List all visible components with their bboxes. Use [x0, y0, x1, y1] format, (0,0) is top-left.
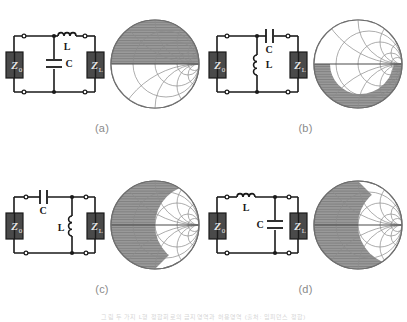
panel-d: Z 0 Z L L C	[204, 161, 407, 322]
panel-label-d: (d)	[204, 283, 407, 295]
circuit-diagram-d: Z 0 Z L L C	[205, 183, 310, 268]
inductor-label-a: L	[63, 41, 70, 52]
source-label-a: Z	[10, 59, 18, 71]
panel-label-c: (c)	[0, 283, 204, 295]
source-label-d: Z	[213, 220, 221, 232]
load-impedance-block-b: Z L	[290, 52, 307, 78]
load-impedance-block-a: Z L	[87, 52, 104, 78]
figure-panel-grid: Z 0 Z L L C	[0, 0, 407, 322]
load-sub-c: L	[98, 227, 102, 235]
smith-chart-b	[310, 14, 406, 114]
inductor-symbol-c	[68, 216, 71, 236]
panel-c-content: Z 0 Z L C L	[0, 161, 204, 289]
source-label-b: Z	[213, 59, 221, 71]
load-label-b: Z	[293, 59, 301, 71]
circuit-diagram-b: Z 0 Z L C L	[205, 22, 310, 107]
panel-label-a: (a)	[0, 122, 204, 134]
circuit-diagram-c: Z 0 Z L C L	[2, 183, 107, 268]
source-sub-d: 0	[222, 227, 226, 235]
inductor-symbol-d	[237, 193, 255, 196]
load-impedance-block-c: Z L	[87, 213, 104, 239]
panel-d-content: Z 0 Z L L C	[204, 161, 407, 289]
panel-label-b: (b)	[204, 122, 407, 134]
source-impedance-block-d: Z 0	[209, 213, 226, 239]
capacitor-symbol-a	[46, 60, 62, 67]
figure-bottom-caption: 그림 두 가지 L형 정합회로의 금지영역과 허용영역 (출처: 임피던스 정합…	[0, 312, 407, 321]
inductor-label-b: L	[266, 59, 273, 70]
capacitor-label-b: C	[265, 44, 272, 55]
capacitor-label-d: C	[256, 219, 263, 230]
inductor-symbol-b	[254, 55, 257, 75]
inductor-label-c: L	[57, 222, 64, 233]
smith-chart-c	[107, 175, 203, 275]
inductor-symbol-a	[58, 32, 76, 35]
terminal-nodes-c	[24, 195, 88, 255]
capacitor-symbol-c	[40, 190, 47, 204]
capacitor-label-c: C	[39, 205, 46, 216]
panel-b-content: Z 0 Z L C L	[204, 0, 407, 128]
load-label-c: Z	[90, 220, 98, 232]
inductor-label-d: L	[243, 202, 250, 213]
load-label-a: Z	[90, 59, 98, 71]
load-sub-a: L	[98, 66, 102, 74]
source-sub-b: 0	[222, 66, 226, 74]
source-impedance-block-b: Z 0	[209, 52, 226, 78]
panel-a: Z 0 Z L L C	[0, 0, 204, 161]
capacitor-label-a: C	[65, 58, 72, 69]
panel-a-content: Z 0 Z L L C	[0, 0, 204, 128]
source-label-c: Z	[10, 220, 18, 232]
load-impedance-block-d: Z L	[290, 213, 307, 239]
load-sub-b: L	[302, 66, 306, 74]
smith-chart-d	[310, 175, 406, 275]
panel-c: Z 0 Z L C L	[0, 161, 204, 322]
load-sub-d: L	[302, 227, 306, 235]
source-impedance-block-a: Z 0	[6, 52, 23, 78]
source-sub-c: 0	[18, 227, 22, 235]
panel-b: Z 0 Z L C L	[204, 0, 407, 161]
circuit-diagram-a: Z 0 Z L L C	[2, 22, 107, 107]
load-label-d: Z	[293, 220, 301, 232]
source-impedance-block-c: Z 0	[6, 213, 23, 239]
smith-chart-a	[107, 14, 203, 114]
capacitor-symbol-b	[266, 29, 273, 43]
capacitor-symbol-d	[267, 221, 283, 228]
source-sub-a: 0	[18, 66, 22, 74]
